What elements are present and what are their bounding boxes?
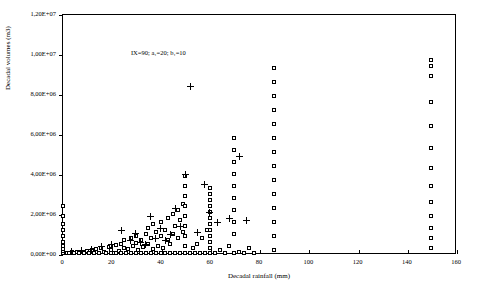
data-point-cross [236, 153, 243, 160]
x-axis-tick [260, 250, 261, 254]
x-axis-tick [359, 250, 360, 254]
data-point-cross [88, 246, 95, 253]
data-point-square [272, 80, 276, 84]
data-point-square [232, 220, 236, 224]
data-point-square [272, 206, 276, 210]
data-point-square [119, 251, 123, 255]
data-point-square [232, 251, 236, 255]
data-point-square [154, 251, 158, 255]
data-point-square [429, 184, 433, 188]
data-point-square [195, 242, 199, 246]
data-point-square [159, 220, 163, 224]
data-point-cross [194, 229, 201, 236]
data-point-cross [214, 219, 221, 226]
data-point-cross [142, 241, 149, 248]
data-point-square [183, 184, 187, 188]
data-point-cross [226, 215, 233, 222]
data-point-cross [177, 223, 184, 230]
data-point-square [151, 222, 155, 226]
x-axis-tick-label: 100 [294, 258, 322, 265]
data-point-square [429, 100, 433, 104]
y-axis-tick-label: 4,00E+06 [30, 170, 56, 177]
data-point-square [183, 244, 187, 248]
data-point-square [183, 251, 187, 255]
y-axis-tick [59, 15, 63, 16]
data-point-cross [147, 213, 154, 220]
data-point-square [208, 186, 212, 190]
data-point-cross [68, 248, 75, 255]
data-point-square [232, 208, 236, 212]
data-point-square [232, 160, 236, 164]
data-point-square [208, 246, 212, 250]
data-point-square [144, 232, 148, 236]
x-axis-tick-label: 120 [344, 258, 372, 265]
data-point-square [183, 224, 187, 228]
data-point-square [193, 251, 197, 255]
data-point-square [104, 251, 108, 255]
data-point-square [232, 136, 236, 140]
data-point-square [61, 234, 65, 238]
data-point-cross [243, 217, 250, 224]
data-point-square [188, 251, 192, 255]
data-point-square [272, 220, 276, 224]
data-point-square [144, 251, 148, 255]
data-point-square [208, 192, 212, 196]
data-point-square [272, 164, 276, 168]
data-point-square [272, 234, 276, 238]
data-point-square [61, 244, 65, 248]
data-point-square [183, 214, 187, 218]
data-point-square [129, 251, 133, 255]
data-point-square [183, 204, 187, 208]
data-point-square [429, 74, 433, 78]
data-point-square [429, 64, 433, 68]
data-point-cross [206, 209, 213, 216]
data-point-square [124, 251, 128, 255]
data-point-square [429, 246, 433, 250]
data-point-cross [187, 83, 194, 90]
data-point-square [168, 251, 172, 255]
data-point-cross [157, 225, 164, 232]
data-point-square [178, 251, 182, 255]
data-point-square [272, 122, 276, 126]
data-point-square [208, 251, 212, 255]
x-axis-tick [309, 250, 310, 254]
x-axis-title: Decadal rainfall (mm) [62, 272, 456, 280]
data-point-square [161, 246, 165, 250]
data-point-square [272, 150, 276, 154]
y-axis-tick-label: 8,00E+06 [30, 90, 56, 97]
data-point-square [171, 212, 175, 216]
data-point-square [159, 251, 163, 255]
data-point-cross [182, 171, 189, 178]
data-point-square [61, 204, 65, 208]
data-point-square [429, 200, 433, 204]
data-point-square [272, 192, 276, 196]
data-point-square [61, 240, 65, 244]
data-point-cross [127, 237, 134, 244]
y-axis-tick [59, 255, 63, 256]
data-point-cross [132, 230, 139, 237]
data-point-square [272, 94, 276, 98]
data-point-cross [98, 243, 105, 250]
data-point-square [166, 216, 170, 220]
data-point-square [61, 222, 65, 226]
data-point-square [232, 172, 236, 176]
data-point-cross [152, 235, 159, 242]
data-point-square [232, 196, 236, 200]
x-axis-tick-label: 80 [245, 258, 273, 265]
data-point-square [183, 234, 187, 238]
data-point-square [114, 243, 118, 247]
data-point-square [61, 228, 65, 232]
x-axis-tick [457, 250, 458, 254]
data-point-square [139, 251, 143, 255]
data-point-square [203, 251, 207, 255]
data-point-square [191, 246, 195, 250]
data-point-cross [201, 181, 208, 188]
data-point-square [429, 58, 433, 62]
data-point-cross [167, 231, 174, 238]
data-point-square [232, 232, 236, 236]
data-point-square [156, 244, 160, 248]
data-point-square [237, 250, 241, 254]
data-point-square [429, 166, 433, 170]
data-point-square [146, 226, 150, 230]
data-point-square [208, 198, 212, 202]
